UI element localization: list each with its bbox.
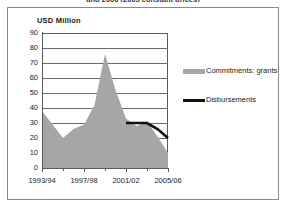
y-axis-tick-label: 90: [16, 29, 38, 37]
y-axis-tick-label: 10: [16, 149, 38, 157]
y-axis-tick-label: 40: [16, 104, 38, 112]
legend-label-disbursements: Disbursements: [206, 95, 256, 104]
x-axis-tick-label: 2001/02: [104, 176, 148, 185]
legend: Commitments: grants Disbursements: [183, 66, 279, 124]
y-axis-tick-label: 50: [16, 89, 38, 97]
legend-label-commitments: Commitments: grants: [206, 66, 277, 75]
y-axis-tick-label: 60: [16, 74, 38, 82]
x-axis-tick: [42, 168, 43, 172]
y-axis-tick-label: 80: [16, 44, 38, 52]
x-axis-tick-minor: [63, 168, 64, 171]
legend-swatch-area-icon: [183, 69, 205, 74]
chart-figure: and 2006 (2005 constant prices) USD Mill…: [0, 0, 286, 208]
x-axis-tick-minor: [105, 168, 106, 171]
series-layer: [42, 33, 168, 168]
figure-supertitle: and 2006 (2005 constant prices): [0, 0, 286, 2]
x-axis-tick-label: 1993/94: [20, 176, 64, 185]
y-axis-tick-label: 30: [16, 119, 38, 127]
x-axis-tick: [168, 168, 169, 172]
legend-swatch-line-icon: [183, 99, 205, 102]
y-axis-title: USD Million: [37, 16, 81, 25]
y-axis-line: [42, 32, 43, 169]
x-axis-tick: [84, 168, 85, 172]
legend-item-disbursements: Disbursements: [183, 95, 279, 104]
y-axis-tick-label: 20: [16, 134, 38, 142]
x-axis-tick-minor: [147, 168, 148, 171]
x-axis-tick-label: 2005/06: [146, 176, 190, 185]
x-axis-tick-label: 1997/98: [62, 176, 106, 185]
y-axis-tick-label: 70: [16, 59, 38, 67]
plot-area: [42, 33, 168, 168]
legend-item-commitments: Commitments: grants: [183, 66, 279, 75]
x-axis-tick: [126, 168, 127, 172]
y-axis-tick-label: 0: [16, 164, 38, 172]
area-series-commitments: [42, 54, 168, 168]
